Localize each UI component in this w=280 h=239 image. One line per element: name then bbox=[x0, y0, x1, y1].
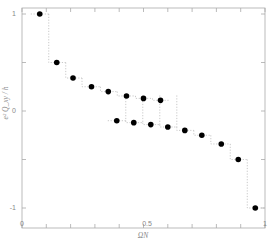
y-tick-label-1: 1 bbox=[12, 10, 16, 17]
data-point bbox=[148, 122, 154, 128]
data-point bbox=[54, 60, 60, 66]
data-point bbox=[218, 141, 224, 147]
chart: 0 0.5 1 1 0 -1 ΩN e² Q_xy / h bbox=[0, 0, 280, 239]
data-point bbox=[131, 120, 137, 126]
data-point bbox=[141, 96, 147, 102]
data-point bbox=[235, 157, 241, 163]
y-tick-label-minus1: -1 bbox=[10, 204, 16, 211]
x-tick-label-0: 0 bbox=[20, 220, 24, 227]
x-tick-label-0.5: 0.5 bbox=[142, 220, 152, 227]
y-axis-title: e² Q_xy / h bbox=[1, 86, 10, 119]
data-point bbox=[252, 205, 258, 211]
data-point bbox=[89, 84, 95, 90]
x-axis-title: ΩN bbox=[138, 231, 149, 239]
axis-ticks bbox=[22, 8, 265, 228]
data-point bbox=[165, 124, 171, 130]
data-point bbox=[182, 128, 188, 134]
data-point bbox=[105, 89, 111, 95]
data-point bbox=[199, 132, 205, 138]
data-points bbox=[37, 11, 258, 211]
plot-frame bbox=[22, 8, 265, 228]
x-tick-label-1: 1 bbox=[263, 220, 267, 227]
data-point bbox=[124, 93, 130, 99]
dotted-step-lines bbox=[31, 14, 265, 208]
y-tick-label-0: 0 bbox=[12, 107, 16, 114]
data-point bbox=[158, 98, 164, 104]
data-point bbox=[114, 118, 120, 124]
data-point bbox=[70, 75, 76, 81]
data-point bbox=[37, 11, 43, 17]
